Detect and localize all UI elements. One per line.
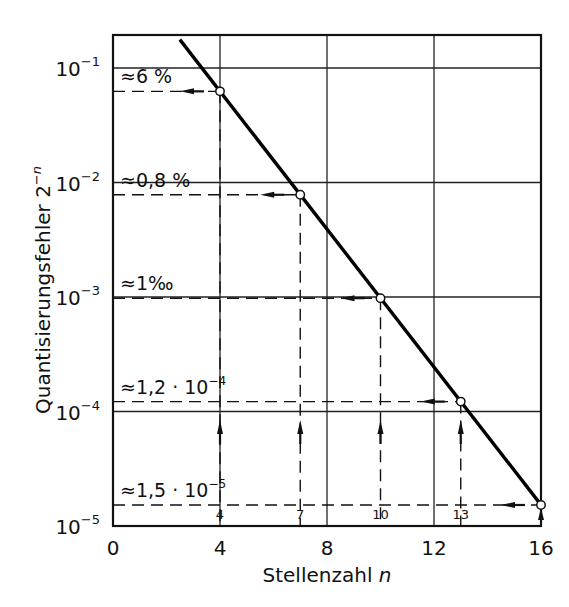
y-tick-label: 10−4 xyxy=(55,398,100,425)
x-tick-label: 4 xyxy=(214,536,227,560)
y-axis-tick-labels: 10−110−210−310−410−5 xyxy=(55,54,100,539)
data-point xyxy=(296,191,304,199)
data-point xyxy=(537,501,545,509)
x-tick-label: 0 xyxy=(107,536,120,560)
x-tick-label: 8 xyxy=(321,536,334,560)
n-marker-label: 4 xyxy=(216,507,224,522)
y-tick-label: 10−5 xyxy=(55,512,100,539)
value-annotation: ≈0,8 % xyxy=(120,169,190,191)
y-tick-label: 10−1 xyxy=(55,54,100,81)
x-axis-tick-labels: 0481216 xyxy=(107,536,554,560)
y-tick-label: 10−2 xyxy=(55,169,100,196)
x-axis-label: Stellenzahl n xyxy=(263,563,392,587)
quantization-error-chart: 10−110−210−310−410−5 0481216 ≈6 %≈0,8 %≈… xyxy=(0,0,569,607)
data-point xyxy=(376,294,384,302)
x-tick-label: 12 xyxy=(421,536,446,560)
n-marker-label: 13 xyxy=(452,507,469,522)
value-annotations: ≈6 %≈0,8 %≈1‰≈1,2 · 10−4≈1,5 · 10−5 xyxy=(120,65,226,501)
error-curve xyxy=(180,40,541,505)
y-tick-label: 10−3 xyxy=(55,283,100,310)
y-axis-label: Quantisierungsfehler 2−n xyxy=(29,166,55,414)
n-marker-label: 10 xyxy=(372,507,389,522)
n-marker-label: 7 xyxy=(296,507,304,522)
x-tick-label: 16 xyxy=(528,536,553,560)
value-annotation: ≈1,2 · 10−4 xyxy=(120,374,226,398)
value-annotation: ≈1,5 · 10−5 xyxy=(120,477,226,501)
value-annotation: ≈6 % xyxy=(120,65,172,87)
grid-lines xyxy=(113,35,541,526)
dashed-guide-lines xyxy=(113,88,544,526)
data-point xyxy=(216,87,224,95)
n-marker-labels: 471013 xyxy=(216,507,469,522)
data-point xyxy=(457,397,465,405)
value-annotation: ≈1‰ xyxy=(120,272,174,294)
